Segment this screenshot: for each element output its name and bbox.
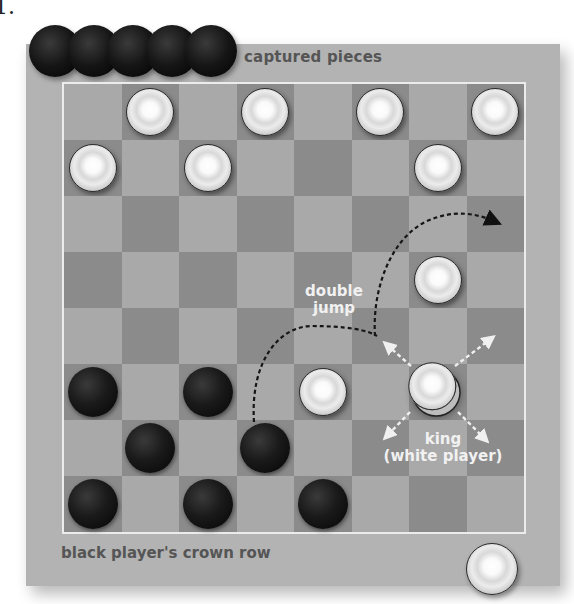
board-square[interactable] bbox=[179, 252, 237, 308]
board-square[interactable] bbox=[409, 140, 467, 196]
board-square[interactable] bbox=[237, 252, 295, 308]
board-square[interactable] bbox=[352, 84, 410, 140]
black-piece[interactable] bbox=[183, 479, 233, 529]
board-square[interactable] bbox=[352, 196, 410, 252]
board-square[interactable] bbox=[237, 84, 295, 140]
board-square[interactable] bbox=[179, 476, 237, 532]
board-square[interactable] bbox=[294, 420, 352, 476]
board-square[interactable] bbox=[294, 196, 352, 252]
board-square[interactable] bbox=[64, 252, 122, 308]
board-square[interactable] bbox=[237, 140, 295, 196]
board-square[interactable] bbox=[179, 196, 237, 252]
board-square[interactable] bbox=[409, 476, 467, 532]
board-square[interactable] bbox=[294, 84, 352, 140]
board-square[interactable] bbox=[64, 84, 122, 140]
board-square[interactable] bbox=[179, 308, 237, 364]
white-piece[interactable] bbox=[356, 88, 404, 136]
white-piece[interactable] bbox=[69, 144, 117, 192]
board-square[interactable] bbox=[294, 476, 352, 532]
board-square[interactable] bbox=[64, 364, 122, 420]
king-line1: king bbox=[383, 431, 503, 448]
double-jump-line1: double bbox=[300, 283, 368, 300]
board-square[interactable] bbox=[409, 84, 467, 140]
white-piece[interactable] bbox=[414, 256, 462, 304]
crown-row-label: black player's crown row bbox=[61, 544, 271, 562]
black-piece[interactable] bbox=[298, 479, 348, 529]
board-square[interactable] bbox=[409, 196, 467, 252]
board-square[interactable] bbox=[294, 364, 352, 420]
white-piece[interactable] bbox=[241, 88, 289, 136]
board-square[interactable] bbox=[237, 196, 295, 252]
board-square[interactable] bbox=[179, 84, 237, 140]
board-square[interactable] bbox=[467, 196, 525, 252]
board-square[interactable] bbox=[409, 308, 467, 364]
board-square[interactable] bbox=[179, 364, 237, 420]
captured-black-piece bbox=[185, 25, 237, 77]
board-square[interactable] bbox=[64, 420, 122, 476]
board-square[interactable] bbox=[237, 364, 295, 420]
board-square[interactable] bbox=[352, 476, 410, 532]
black-piece[interactable] bbox=[183, 367, 233, 417]
king-annotation: king (white player) bbox=[383, 431, 503, 465]
double-jump-annotation: double jump bbox=[300, 283, 368, 317]
double-jump-line2: jump bbox=[300, 300, 368, 317]
board-square[interactable] bbox=[122, 252, 180, 308]
board-square[interactable] bbox=[237, 476, 295, 532]
board-square[interactable] bbox=[64, 476, 122, 532]
board-square[interactable] bbox=[467, 252, 525, 308]
board-square[interactable] bbox=[467, 84, 525, 140]
black-piece[interactable] bbox=[68, 367, 118, 417]
board-square[interactable] bbox=[122, 140, 180, 196]
white-piece[interactable] bbox=[471, 88, 519, 136]
board-square[interactable] bbox=[409, 252, 467, 308]
board-square[interactable] bbox=[122, 476, 180, 532]
white-piece-off-board bbox=[466, 543, 518, 595]
board-square[interactable] bbox=[64, 196, 122, 252]
board-square[interactable] bbox=[64, 140, 122, 196]
white-piece[interactable] bbox=[414, 144, 462, 192]
board-square[interactable] bbox=[467, 140, 525, 196]
board-square[interactable] bbox=[237, 420, 295, 476]
black-piece[interactable] bbox=[68, 479, 118, 529]
board-square[interactable] bbox=[467, 476, 525, 532]
board-square[interactable] bbox=[122, 420, 180, 476]
board-square[interactable] bbox=[409, 364, 467, 420]
board-square[interactable] bbox=[352, 364, 410, 420]
king-line2: (white player) bbox=[383, 448, 503, 465]
white-king-piece[interactable] bbox=[408, 362, 456, 410]
board-square[interactable] bbox=[122, 196, 180, 252]
board-square[interactable] bbox=[122, 84, 180, 140]
white-piece[interactable] bbox=[126, 88, 174, 136]
black-piece[interactable] bbox=[240, 423, 290, 473]
board-square[interactable] bbox=[294, 140, 352, 196]
board-square[interactable] bbox=[237, 308, 295, 364]
board-square[interactable] bbox=[179, 140, 237, 196]
white-piece[interactable] bbox=[299, 368, 347, 416]
figure-number: 1. bbox=[0, 0, 15, 19]
board-square[interactable] bbox=[467, 308, 525, 364]
board-square[interactable] bbox=[122, 364, 180, 420]
board-square[interactable] bbox=[352, 140, 410, 196]
board-square[interactable] bbox=[122, 308, 180, 364]
board-square[interactable] bbox=[64, 308, 122, 364]
captured-pieces-label: captured pieces bbox=[244, 48, 382, 66]
board-square[interactable] bbox=[467, 364, 525, 420]
black-piece[interactable] bbox=[125, 423, 175, 473]
board-square[interactable] bbox=[179, 420, 237, 476]
white-piece[interactable] bbox=[184, 144, 232, 192]
